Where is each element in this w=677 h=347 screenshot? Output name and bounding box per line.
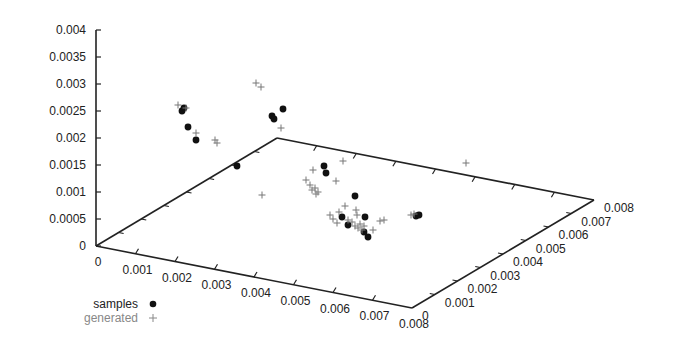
generated-point (258, 84, 265, 91)
x-tick-label: 0.002 (162, 271, 192, 285)
sample-point (321, 163, 328, 170)
legend-samples-marker (150, 301, 157, 308)
generated-point (463, 160, 470, 167)
x-tick (373, 295, 376, 300)
generated-point (175, 102, 182, 109)
y-tick-label: 0.003 (490, 269, 520, 283)
sample-point (352, 193, 359, 200)
legend: samples generated (84, 297, 157, 325)
sample-point (323, 170, 330, 177)
back-left-tick (141, 219, 146, 220)
back-left-tick (209, 179, 214, 180)
generated-point (278, 125, 285, 132)
z-tick-label: 0.0035 (49, 50, 86, 64)
x-tick-label: 0.006 (320, 302, 350, 316)
back-left-tick (119, 233, 124, 234)
y-tick (498, 253, 503, 254)
generated-point (333, 178, 340, 185)
back-right-tick (551, 192, 554, 197)
x-tick-label: 0.004 (241, 286, 271, 300)
generated-point (370, 227, 377, 234)
sample-point (185, 124, 192, 131)
x-tick (136, 249, 139, 254)
x-tick-label: 0.001 (122, 263, 152, 277)
y-tick-label: 0.005 (536, 242, 566, 256)
x-tick-label: 0 (95, 255, 102, 269)
generated-point (340, 158, 347, 165)
back-right-tick (472, 177, 475, 182)
z-tick-label: 0 (79, 239, 86, 253)
y-tick-label: 0.008 (604, 201, 634, 215)
generated-point (253, 80, 260, 87)
generated-point (353, 207, 360, 214)
generated-point (377, 218, 384, 225)
legend-samples-label: samples (93, 297, 138, 311)
generated-point (310, 167, 317, 174)
generated-point (259, 192, 266, 199)
x-tick (333, 288, 336, 293)
generated-point (303, 177, 310, 184)
z-tick-label: 0.0015 (49, 158, 86, 172)
sample-point (271, 116, 278, 123)
generated-point (354, 212, 361, 219)
x-tick (294, 280, 297, 285)
legend-generated-label: generated (84, 311, 138, 325)
generated-point (381, 217, 388, 224)
z-tick-label: 0.0025 (49, 104, 86, 118)
y-tick-label: 0 (422, 309, 429, 323)
back-left-tick (187, 192, 192, 193)
generated-point (193, 130, 200, 137)
back-left-tick (254, 152, 259, 153)
x-tick-label: 0.003 (201, 278, 231, 292)
back-left-tick (164, 206, 169, 207)
sample-point (416, 212, 423, 219)
x-tick-label: 0.007 (359, 309, 389, 323)
z-tick-label: 0.0005 (49, 212, 86, 226)
sample-point (234, 163, 241, 170)
x-tick (215, 264, 218, 269)
y-tick (521, 240, 526, 241)
y-tick (566, 213, 571, 214)
y-tick-label: 0.002 (468, 282, 498, 296)
y-tick-label: 0.007 (581, 215, 611, 229)
sample-point (362, 214, 369, 221)
x-tick (254, 272, 257, 277)
z-tick-label: 0.001 (56, 185, 86, 199)
legend-generated-marker (149, 314, 157, 322)
x-tick-label: 0.005 (280, 294, 310, 308)
x-tick (175, 257, 178, 262)
generated-point (334, 220, 341, 227)
sample-point (280, 106, 287, 113)
y-tick (544, 226, 549, 227)
sample-point (193, 137, 200, 144)
y-tick-label: 0.001 (445, 296, 475, 310)
back-right-tick (433, 169, 436, 174)
y-tick (453, 280, 458, 281)
generated-point (342, 203, 349, 210)
y-tick (430, 294, 435, 295)
generated-point (330, 216, 337, 223)
scatter-3d-plot: 00.00050.0010.00150.0020.00250.0030.0035… (0, 0, 677, 347)
z-tick-label: 0.004 (56, 23, 86, 37)
back-right-tick (512, 185, 515, 190)
sample-point (365, 234, 372, 241)
back-right-tick (314, 146, 317, 151)
y-tick-label: 0.004 (513, 255, 543, 269)
generated-point (327, 212, 334, 219)
z-tick-label: 0.002 (56, 131, 86, 145)
y-tick-label: 0.006 (559, 228, 589, 242)
y-tick (475, 267, 480, 268)
z-tick-label: 0.003 (56, 77, 86, 91)
back-right-tick (393, 161, 396, 166)
sample-point (339, 214, 346, 221)
back-right-tick (353, 154, 356, 159)
